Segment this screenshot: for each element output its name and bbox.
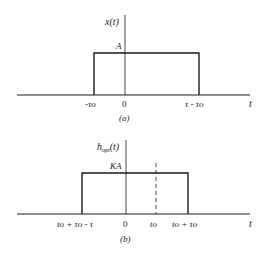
diagram-canvas: x(t) A t -τo 0 τ - τo (a) hopt(t) KA t t… (0, 0, 266, 255)
tick-b-0: to + τo - τ (57, 219, 94, 229)
xlabel-b: t (249, 218, 252, 229)
rect-pulse-b (82, 173, 188, 214)
amplitude-label-a: A (115, 41, 122, 51)
tick-b-2: to (150, 219, 158, 229)
figure-b: hopt(t) KA t to + τo - τ 0 to to + τo (b… (17, 140, 252, 244)
tick-b-3: to + τo (172, 219, 198, 229)
ylabel-a: x(t) (104, 16, 120, 28)
tick-a-1: 0 (122, 99, 127, 109)
caption-b: (b) (120, 234, 131, 244)
tick-a-0: -τo (85, 99, 96, 109)
tick-b-1: 0 (123, 219, 128, 229)
rect-pulse-a (94, 53, 199, 95)
figure-a: x(t) A t -τo 0 τ - τo (a) (17, 15, 252, 123)
xlabel-a: t (249, 98, 252, 109)
tick-a-2: τ - τo (185, 99, 204, 109)
caption-a: (a) (119, 113, 130, 123)
ylabel-b: hopt(t) (97, 141, 120, 153)
amplitude-label-b: KA (109, 161, 122, 171)
